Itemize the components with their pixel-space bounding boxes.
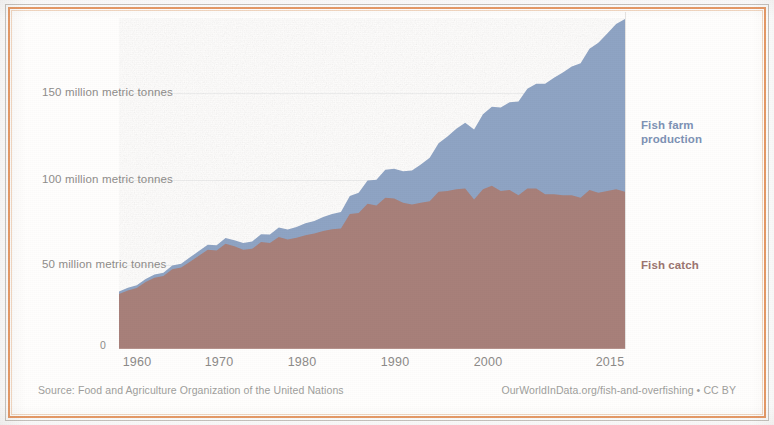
y-tick-label-0: 0 xyxy=(100,339,106,351)
series-label-fish-farm-production: Fish farm production xyxy=(641,118,702,146)
plot-right-edge xyxy=(625,12,626,349)
x-tick-label-2000: 2000 xyxy=(474,355,503,369)
x-tick-label-1970: 1970 xyxy=(205,355,234,369)
chart-screenshot: 0 50 million metric tonnes 100 million m… xyxy=(0,0,774,425)
x-tick-label-1960: 1960 xyxy=(123,355,152,369)
x-tick-label-1980: 1980 xyxy=(288,355,317,369)
y-tick-label-50: 50 million metric tonnes xyxy=(42,258,166,270)
x-tick-label-1990: 1990 xyxy=(381,355,410,369)
fish-catch-area xyxy=(119,186,625,349)
y-tick-label-100: 100 million metric tonnes xyxy=(42,173,173,185)
source-note: Source: Food and Agriculture Organizatio… xyxy=(38,384,344,396)
attribution-note: OurWorldInData.org/fish-and-overfishing … xyxy=(501,384,736,396)
x-tick-label-2015: 2015 xyxy=(596,355,625,369)
series-label-fish-catch: Fish catch xyxy=(641,258,699,272)
y-tick-label-150: 150 million metric tonnes xyxy=(42,86,173,98)
x-axis-baseline xyxy=(119,348,625,349)
